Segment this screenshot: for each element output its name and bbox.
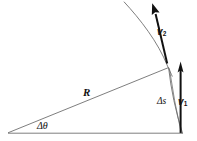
velocity-2-label: v2 <box>157 27 166 38</box>
velocity-2-subscript: 2 <box>163 30 167 37</box>
velocity-1-symbol: v <box>178 96 184 107</box>
velocity-1-label: v1 <box>178 97 187 108</box>
trajectory-curve <box>124 2 172 76</box>
figure-container: R Δθ Δs v2 v1 <box>0 0 197 141</box>
velocity-1-subscript: 1 <box>184 100 188 107</box>
velocity-2-arrowhead <box>152 3 160 15</box>
delta-theta-label: Δθ <box>37 121 48 131</box>
velocity-2-shaft <box>156 14 168 64</box>
velocity-2-symbol: v <box>157 26 163 37</box>
delta-s-label: Δs <box>157 97 166 107</box>
radius-label: R <box>83 87 90 98</box>
vector-diagram-svg <box>0 0 197 141</box>
radius-line <box>8 68 169 133</box>
